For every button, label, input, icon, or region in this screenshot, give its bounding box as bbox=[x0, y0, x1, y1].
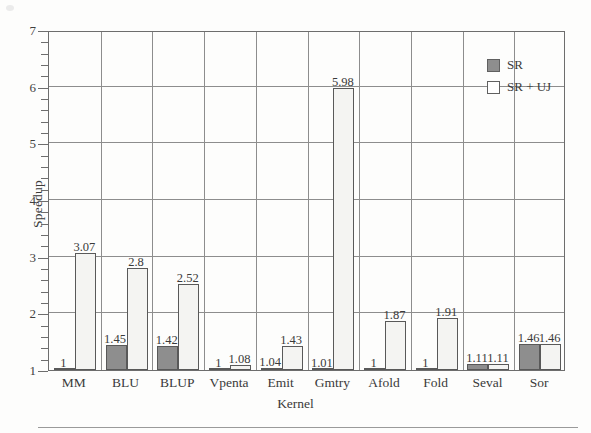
y-axis-minor-tick bbox=[41, 326, 48, 327]
y-axis-minor-tick bbox=[41, 224, 48, 225]
y-axis-minor-tick bbox=[41, 65, 48, 66]
y-axis-tick-label: 6 bbox=[10, 81, 36, 94]
bar-value-label: 1.46 bbox=[532, 332, 568, 345]
legend-swatch-sruj-icon bbox=[487, 81, 500, 94]
y-axis-minor-tick bbox=[41, 42, 48, 43]
bar-value-label: 2.8 bbox=[118, 256, 154, 269]
y-axis-minor-tick bbox=[41, 110, 48, 111]
bar-sor-sruj bbox=[540, 344, 561, 370]
y-axis-minor-tick bbox=[41, 122, 48, 123]
legend-label-sr: SR bbox=[507, 57, 523, 73]
y-axis-minor-tick bbox=[41, 133, 48, 134]
bar-blup-sr bbox=[157, 346, 178, 370]
bar-value-label: 1 bbox=[45, 357, 81, 370]
y-axis-minor-tick bbox=[41, 269, 48, 270]
legend-item-sruj: SR + UJ bbox=[487, 76, 573, 98]
y-axis-tick-label: 3 bbox=[10, 251, 36, 264]
y-axis-tick-label: 1 bbox=[10, 364, 36, 377]
bar-value-label: 1 bbox=[356, 357, 392, 370]
y-axis-minor-tick bbox=[41, 348, 48, 349]
bar-value-label: 1 bbox=[407, 357, 443, 370]
x-axis-label-sor: Sor bbox=[499, 375, 579, 391]
y-axis-minor-tick bbox=[41, 190, 48, 191]
bar-blu-sr bbox=[106, 345, 127, 371]
gridline-vertical bbox=[204, 32, 205, 370]
y-axis-minor-tick bbox=[41, 156, 48, 157]
legend-swatch-sr-icon bbox=[487, 59, 500, 72]
legend-label-sruj: SR + UJ bbox=[507, 79, 551, 95]
legend-item-sr: SR bbox=[487, 54, 573, 76]
bar-value-label: 1.91 bbox=[428, 306, 464, 319]
y-axis-minor-tick bbox=[41, 99, 48, 100]
bar-mm-sruj bbox=[75, 253, 96, 370]
y-axis-major-tick bbox=[38, 314, 48, 315]
scan-artifact bbox=[6, 5, 14, 11]
speedup-bar-chart-figure: Speedup 1234567 13.071.452.81.422.5211.0… bbox=[0, 0, 591, 433]
y-axis-major-tick bbox=[38, 31, 48, 32]
y-axis-major-tick bbox=[38, 88, 48, 89]
bar-value-label: 5.98 bbox=[325, 76, 361, 89]
bar-blu-sruj bbox=[127, 268, 148, 370]
y-axis-minor-tick bbox=[41, 246, 48, 247]
y-axis-minor-tick bbox=[41, 167, 48, 168]
y-axis-minor-tick bbox=[41, 178, 48, 179]
bar-value-label: 1.42 bbox=[149, 334, 185, 347]
y-axis-tick-label: 2 bbox=[10, 307, 36, 320]
page-horizontal-rule bbox=[38, 427, 578, 428]
y-axis-tick-label: 4 bbox=[10, 194, 36, 207]
bar-value-label: 1.87 bbox=[377, 309, 413, 322]
bar-blup-sruj bbox=[178, 284, 199, 370]
bar-value-label: 1.45 bbox=[97, 333, 133, 346]
gridline-vertical bbox=[256, 32, 257, 370]
x-axis-title: Kernel bbox=[0, 396, 591, 412]
bar-value-label: 1.43 bbox=[273, 334, 309, 347]
y-axis-major-tick bbox=[38, 144, 48, 145]
gridline-horizontal bbox=[49, 142, 564, 143]
y-axis-major-tick bbox=[38, 201, 48, 202]
y-axis-minor-tick bbox=[41, 280, 48, 281]
y-axis-minor-tick bbox=[41, 303, 48, 304]
legend: SR SR + UJ bbox=[487, 54, 573, 98]
y-axis-minor-tick bbox=[41, 337, 48, 338]
gridline-vertical bbox=[152, 32, 153, 370]
bar-value-label: 1.04 bbox=[252, 356, 288, 369]
bar-value-label: 1.01 bbox=[304, 357, 340, 370]
gridline-horizontal bbox=[49, 199, 564, 200]
gridline-vertical bbox=[308, 32, 309, 370]
y-axis-major-tick bbox=[38, 258, 48, 259]
bar-value-label: 3.07 bbox=[66, 241, 102, 254]
bar-value-label: 1.11 bbox=[480, 352, 516, 365]
y-axis-tick-label: 5 bbox=[10, 137, 36, 150]
y-axis-tick-label: 7 bbox=[10, 24, 36, 37]
gridline-vertical bbox=[101, 32, 102, 370]
gridline-vertical bbox=[463, 32, 464, 370]
bar-gmtry-sruj bbox=[333, 88, 354, 370]
y-axis-minor-tick bbox=[41, 235, 48, 236]
y-axis-minor-tick bbox=[41, 76, 48, 77]
y-axis-minor-tick bbox=[41, 292, 48, 293]
bar-sor-sr bbox=[519, 344, 540, 370]
y-axis-minor-tick bbox=[41, 212, 48, 213]
y-axis-major-tick bbox=[38, 371, 48, 372]
bar-value-label: 2.52 bbox=[170, 272, 206, 285]
y-axis-minor-tick bbox=[41, 54, 48, 55]
